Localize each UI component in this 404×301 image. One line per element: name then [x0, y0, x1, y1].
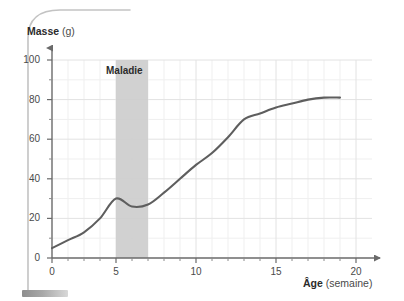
y-tick-label-80: 80: [14, 94, 40, 105]
maladie-band-label: Maladie: [106, 65, 143, 76]
x-tick-label-10: 10: [184, 266, 208, 277]
y-tick-label-0: 0: [14, 252, 40, 263]
y-axis-title: Masse (g): [27, 25, 75, 37]
x-tick-label-0: 0: [40, 266, 64, 277]
x-axis-title-unit: (semaine): [323, 277, 373, 289]
x-axis-ticks-major: [52, 258, 356, 263]
y-tick-label-60: 60: [14, 133, 40, 144]
x-tick-label-5: 5: [104, 266, 128, 277]
y-axis-title-name: Masse: [27, 25, 59, 37]
x-axis-title-name: Âge: [303, 277, 323, 289]
y-axis-title-unit: (g): [59, 25, 75, 37]
y-tick-label-100: 100: [14, 54, 40, 65]
growth-curve-chart: [0, 0, 404, 301]
maladie-band: [116, 60, 148, 258]
y-tick-label-20: 20: [14, 212, 40, 223]
x-tick-label-15: 15: [264, 266, 288, 277]
y-tick-label-40: 40: [14, 173, 40, 184]
x-axis-title: Âge (semaine): [303, 277, 372, 289]
x-tick-label-20: 20: [344, 266, 368, 277]
chart-container: Masse (g) Âge (semaine) Maladie 0 20 40 …: [0, 0, 404, 301]
